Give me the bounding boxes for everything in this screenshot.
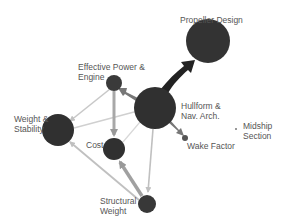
label-effective-power-line2: Engine	[78, 72, 104, 82]
node-propeller-design[interactable]	[186, 19, 230, 63]
label-structural-line1: Structural	[100, 196, 136, 206]
node-cost[interactable]	[103, 138, 125, 160]
node-midship-section[interactable]	[235, 128, 237, 130]
edge-hull-power	[118, 88, 138, 101]
label-structural-line2: Weight	[100, 206, 126, 216]
label-cost: Cost	[86, 140, 103, 150]
node-effective-power-engine[interactable]	[106, 75, 122, 91]
label-weight-stability-line2: Stability	[14, 124, 44, 134]
label-effective-power-line1: Effective Power &	[78, 62, 145, 72]
label-midship-line1: Midship	[243, 121, 272, 131]
edge-hull-structural	[148, 129, 153, 192]
network-diagram	[0, 0, 283, 224]
edge-hull-cost	[123, 122, 140, 142]
label-hullform-line1: Hullform &	[181, 101, 221, 111]
label-weight-stability-line1: Weight &	[14, 114, 48, 124]
edge-power-weight	[70, 89, 110, 121]
label-midship-line2: Section	[243, 131, 271, 141]
label-wake-factor: Wake Factor	[187, 141, 235, 151]
label-hullform-line2: Nav. Arch.	[181, 111, 220, 121]
edge-hull-wake	[168, 120, 184, 136]
edge-structural-cost	[120, 162, 142, 196]
node-structural-weight[interactable]	[138, 195, 156, 213]
node-hullform-nav-arch[interactable]	[134, 87, 176, 129]
label-propeller-design: Propeller Design	[180, 15, 243, 25]
edge-hull-weight	[74, 112, 134, 128]
